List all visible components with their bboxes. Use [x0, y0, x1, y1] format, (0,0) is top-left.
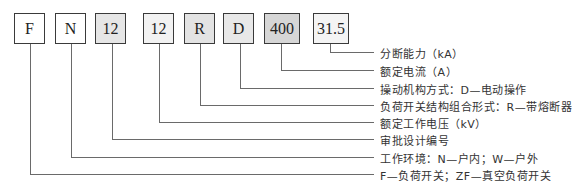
- code-box-mechanism: D: [223, 13, 254, 44]
- label-rated-voltage: 额定工作电压（kV）: [380, 115, 487, 131]
- connector-line: [30, 44, 31, 174]
- label-structure: 负荷开关结构组合形式：R—带熔断器: [380, 98, 572, 114]
- connector-line: [200, 44, 201, 105]
- connector-line: [112, 44, 113, 139]
- code-box-type: F: [14, 13, 45, 44]
- label-switch-type: F—负荷开关；ZF—真空负荷开关: [380, 167, 551, 183]
- label-environment: 工作环境：N—户内；W—户外: [380, 150, 538, 166]
- label-design-number: 审批设计编号: [380, 132, 449, 148]
- connector-line: [281, 44, 282, 70]
- code-box-structure: R: [184, 13, 215, 44]
- connector-line: [30, 174, 374, 175]
- connector-line: [71, 157, 374, 158]
- label-rated-current: 额定电流（A）: [380, 63, 457, 79]
- code-box-current: 400: [264, 13, 300, 44]
- connector-line: [240, 44, 241, 88]
- code-box-environment: N: [55, 13, 86, 44]
- code-box-design-number: 12: [95, 13, 126, 44]
- connector-line: [281, 70, 374, 71]
- label-breaking-capacity: 分断能力（kA）: [380, 45, 464, 61]
- connector-line: [71, 44, 72, 157]
- connector-line: [330, 52, 374, 53]
- label-mechanism: 操动机构方式：D—电动操作: [380, 81, 527, 97]
- connector-line: [159, 122, 374, 123]
- connector-line: [112, 139, 374, 140]
- connector-line: [330, 44, 331, 52]
- code-box-breaking-capacity: 31.5: [313, 13, 349, 44]
- connector-line: [159, 44, 160, 122]
- connector-line: [240, 88, 374, 89]
- connector-line: [200, 105, 374, 106]
- code-box-voltage: 12: [143, 13, 174, 44]
